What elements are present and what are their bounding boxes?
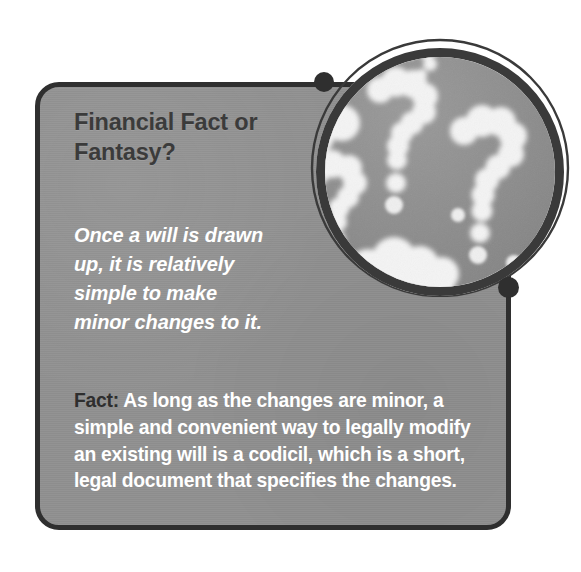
connector-dot-bottom-right-icon [498,277,519,298]
answer-lead-label: Fact: [74,390,119,411]
callout-answer: Fact: As long as the changes are minor, … [74,388,490,495]
callout-statement: Once a will is drawn up, it is relativel… [74,221,274,337]
connector-dot-top-left-icon [314,72,334,92]
question-mark-photo-badge [308,27,572,297]
answer-body-text: As long as the changes are minor, a simp… [74,390,470,491]
page-title: Financial Fact or Fantasy? [74,107,269,167]
illustration-stage: Financial Fact or Fantasy? Once a will i… [0,0,581,572]
